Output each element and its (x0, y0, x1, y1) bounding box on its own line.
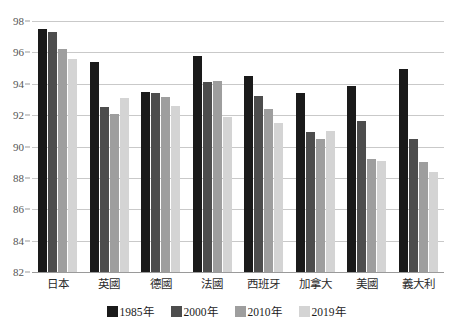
y-axis-tick-label: 94 (13, 78, 24, 90)
x-axis-label-0: 日本 (32, 274, 84, 296)
bar (429, 172, 438, 272)
bar-groups (32, 21, 444, 272)
bar (377, 161, 386, 272)
x-axis-label-3: 法國 (187, 274, 239, 296)
y-axis-tick-mark (25, 240, 30, 241)
x-axis-label-6: 美國 (341, 274, 393, 296)
y-axis-tick-mark (25, 115, 30, 116)
legend-item-0[interactable]: 1985年 (107, 303, 154, 319)
y-axis-tick-label: 98 (13, 15, 24, 27)
bar (357, 121, 366, 272)
bar-group (341, 21, 393, 272)
y-axis-tick-label: 96 (13, 46, 24, 58)
bar (171, 106, 180, 272)
y-axis-tick-mark (25, 146, 30, 147)
bar (193, 56, 202, 272)
legend-swatch-icon (299, 306, 310, 317)
bar (90, 62, 99, 272)
bar-group (393, 21, 445, 272)
x-axis-label-5: 加拿大 (290, 274, 342, 296)
y-axis-tick-mark (25, 177, 30, 178)
gridline (32, 272, 444, 273)
bar (264, 109, 273, 272)
y-axis-tick-mark (25, 209, 30, 210)
y-axis-tick-mark (25, 83, 30, 84)
bar (161, 97, 170, 272)
bar (223, 117, 232, 272)
bar (326, 131, 335, 272)
y-axis-tick-label: 90 (13, 141, 24, 153)
bar (58, 49, 67, 272)
bar (409, 139, 418, 272)
legend-item-1[interactable]: 2000年 (171, 303, 218, 319)
bar-group (135, 21, 187, 272)
bar (244, 76, 253, 272)
legend-label: 2019年 (312, 303, 346, 319)
legend-label: 2010年 (248, 303, 282, 319)
bar-group (32, 21, 84, 272)
bar (213, 81, 222, 272)
chart-legend: 1985年2000年2010年2019年 (0, 303, 452, 319)
y-axis-tick-label: 86 (13, 203, 24, 215)
legend-item-2[interactable]: 2010年 (235, 303, 282, 319)
bar (296, 93, 305, 272)
bar (274, 123, 283, 272)
bar (399, 69, 408, 272)
legend-swatch-icon (107, 306, 118, 317)
y-axis-tick-mark (25, 52, 30, 53)
bar (151, 93, 160, 272)
y-axis-tick-label: 88 (13, 172, 24, 184)
legend-item-3[interactable]: 2019年 (299, 303, 346, 319)
bar (306, 132, 315, 272)
legend-swatch-icon (171, 306, 182, 317)
bar-group (238, 21, 290, 272)
y-axis-tick-label: 82 (13, 266, 24, 278)
bar-group (187, 21, 239, 272)
legend-swatch-icon (235, 306, 246, 317)
bar (203, 82, 212, 272)
y-axis-tick-label: 92 (13, 109, 24, 121)
bar (38, 29, 47, 272)
x-axis-label-2: 德國 (135, 274, 187, 296)
legend-label: 1985年 (120, 303, 154, 319)
x-axis-label-4: 西班牙 (238, 274, 290, 296)
bar (316, 139, 325, 272)
bar-chart: 989694929088868482 日本英國德國法國西班牙加拿大美國義大利 1… (0, 0, 452, 327)
y-axis-tick-mark (25, 272, 30, 273)
bar (48, 32, 57, 272)
legend-label: 2000年 (184, 303, 218, 319)
bar (254, 96, 263, 272)
y-axis-tick-label: 84 (13, 235, 24, 247)
bar-group (84, 21, 136, 272)
bar (100, 107, 109, 272)
x-axis-label-7: 義大利 (393, 274, 445, 296)
bar (141, 92, 150, 272)
bar (367, 159, 376, 272)
x-axis-label-1: 英國 (84, 274, 136, 296)
bar (120, 98, 129, 272)
bar-group (290, 21, 342, 272)
bar (110, 114, 119, 272)
bar (419, 162, 428, 272)
bar (347, 86, 356, 272)
x-axis-labels: 日本英國德國法國西班牙加拿大美國義大利 (32, 274, 444, 296)
y-axis-tick-mark (25, 21, 30, 22)
bar (68, 59, 77, 272)
y-axis: 989694929088868482 (0, 21, 30, 272)
plot-area (32, 21, 444, 272)
